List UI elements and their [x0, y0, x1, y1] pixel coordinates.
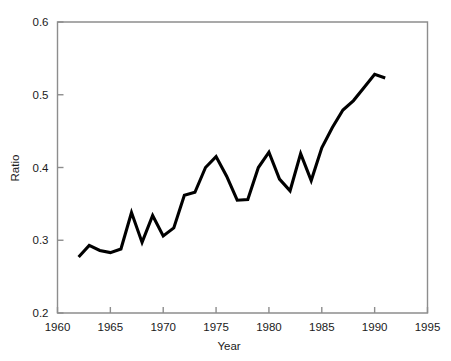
x-tick-label-1975: 1975 [203, 321, 229, 333]
plot-frame [58, 22, 428, 313]
x-axis-tick-marks [58, 307, 428, 313]
y-tick-label-0.3: 0.3 [33, 234, 49, 246]
y-axis-tick-labels: 0.20.30.40.50.6 [33, 16, 50, 319]
x-axis-title: Year [217, 340, 240, 352]
data-series-line [79, 74, 386, 257]
x-tick-label-1980: 1980 [256, 321, 282, 333]
x-tick-label-1970: 1970 [150, 321, 176, 333]
x-axis-tick-labels: 19601965197019751980198519901995 [45, 321, 441, 333]
x-tick-label-1995: 1995 [415, 321, 441, 333]
y-tick-label-0.4: 0.4 [33, 162, 50, 174]
y-tick-label-0.5: 0.5 [33, 89, 49, 101]
x-tick-label-1965: 1965 [98, 321, 124, 333]
y-axis-tick-marks [58, 22, 64, 313]
y-tick-label-0.2: 0.2 [33, 307, 49, 319]
line-chart-figure: 19601965197019751980198519901995 0.20.30… [0, 0, 451, 361]
axis-frame-rect [58, 22, 428, 313]
y-axis-title: Ratio [9, 155, 21, 182]
x-tick-label-1985: 1985 [309, 321, 335, 333]
chart-canvas: 19601965197019751980198519901995 0.20.30… [0, 0, 451, 361]
x-tick-label-1960: 1960 [45, 321, 71, 333]
x-tick-label-1990: 1990 [362, 321, 388, 333]
y-tick-label-0.6: 0.6 [33, 16, 49, 28]
